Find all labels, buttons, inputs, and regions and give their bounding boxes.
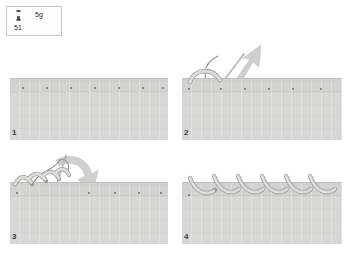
stitch-arc-group xyxy=(190,176,335,193)
stitch-mark-dot xyxy=(268,88,270,90)
stitch-mark-dot xyxy=(138,192,140,194)
fabric-piece-1 xyxy=(10,78,168,140)
panel-number-2: 2 xyxy=(184,128,188,137)
stitch-mark-dot xyxy=(22,87,24,89)
legend-box: 5g 51 xyxy=(6,6,62,36)
stitch-mark-dot xyxy=(292,88,294,90)
panel-3: 3 xyxy=(10,152,168,244)
panel-2: 2 xyxy=(182,44,342,140)
stitch-mark-dot xyxy=(162,87,164,89)
panel-2-stitch-group xyxy=(186,66,246,100)
thread-spool-icon xyxy=(14,10,23,21)
panel-4: 4 xyxy=(182,172,342,244)
panel-number-3: 3 xyxy=(12,232,16,241)
panel-number-4: 4 xyxy=(184,232,188,241)
stitch-mark-dot xyxy=(142,87,144,89)
panel-4-stitch-row xyxy=(182,172,342,206)
panel-1: 1 xyxy=(10,78,168,140)
stitch-mark-dot xyxy=(46,87,48,89)
stitch-mark-dot xyxy=(114,192,116,194)
fabric-top-band xyxy=(10,79,168,92)
stitch-mark-dot xyxy=(160,192,162,194)
legend-size-label: 5g xyxy=(35,9,43,20)
stitch-mark-dot xyxy=(94,87,96,89)
panel-number-1: 1 xyxy=(12,128,16,137)
legend-code-label: 51 xyxy=(14,22,22,33)
panel-3-stitch-group xyxy=(12,160,82,200)
stitch-mark-dot xyxy=(88,192,90,194)
stitch-mark-dot xyxy=(70,87,72,89)
stitch-mark-dot xyxy=(320,88,322,90)
stitch-mark-dot xyxy=(118,87,120,89)
diagram-canvas: 5g 51 1 xyxy=(0,0,350,253)
